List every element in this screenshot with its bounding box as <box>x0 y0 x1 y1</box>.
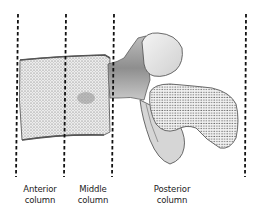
superior-articular-process <box>142 33 182 76</box>
divider-line-anterior <box>16 14 18 177</box>
divider-line-end <box>245 14 246 177</box>
label-posterior-line2: column <box>146 195 198 206</box>
label-anterior-line1: Anterior <box>17 184 63 195</box>
label-middle-line1: Middle <box>70 184 116 195</box>
label-middle-line2: column <box>70 195 116 206</box>
label-posterior-line1: Posterior <box>146 184 198 195</box>
label-middle-column: Middle column <box>70 184 116 206</box>
label-anterior-line2: column <box>17 195 63 206</box>
label-anterior-column: Anterior column <box>17 184 63 206</box>
label-posterior-column: Posterior column <box>146 184 198 206</box>
vertebral-body <box>19 55 110 140</box>
